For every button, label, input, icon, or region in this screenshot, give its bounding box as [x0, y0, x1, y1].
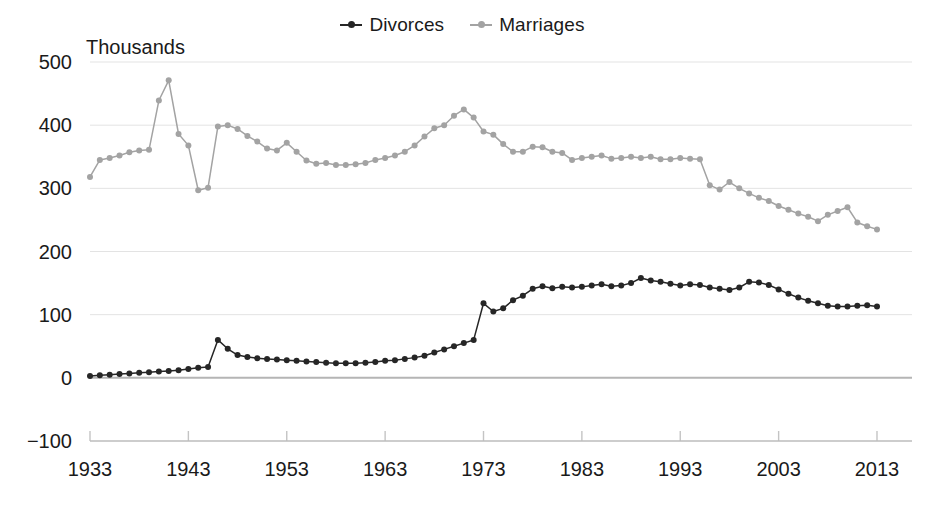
x-axis-tick-label: 1943 — [166, 458, 211, 481]
x-axis-labels: 193319431953196319731983199320032013 — [0, 0, 925, 513]
x-axis-tick-label: 2013 — [855, 458, 900, 481]
x-axis-tick-label: 1993 — [658, 458, 703, 481]
x-axis-tick-label: 1963 — [363, 458, 408, 481]
x-axis-tick-label: 1933 — [68, 458, 113, 481]
x-axis-tick-label: 1953 — [265, 458, 310, 481]
divorces-marriages-line-chart: Divorces Marriages Thousands 50040030020… — [0, 0, 925, 513]
x-axis-tick-label: 1983 — [560, 458, 605, 481]
x-axis-tick-label: 2003 — [756, 458, 801, 481]
x-axis-tick-label: 1973 — [461, 458, 506, 481]
